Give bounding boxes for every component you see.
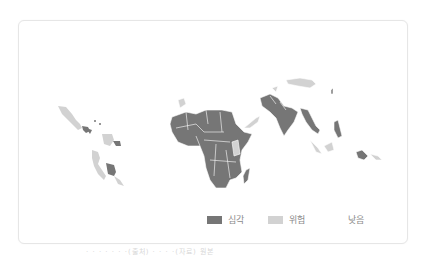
legend-label-low: 낮음 — [348, 213, 364, 226]
legend-label-warning: 위험 — [289, 213, 305, 226]
legend-item-warning: 위험 — [268, 213, 305, 226]
map-legend: 심각 위험 낮음 — [0, 213, 424, 229]
region-africa — [170, 98, 260, 188]
legend-label-severe: 심각 — [228, 213, 244, 226]
legend-item-low: 낮음 — [348, 213, 364, 226]
legend-item-severe: 심각 — [207, 213, 244, 226]
legend-swatch-severe — [207, 216, 222, 224]
region-asia — [260, 78, 382, 160]
source-caption: · · · · · · ·(출처) · · · ·(자료) 원본 — [86, 246, 214, 256]
region-americas — [58, 106, 124, 186]
legend-swatch-warning — [268, 216, 283, 224]
